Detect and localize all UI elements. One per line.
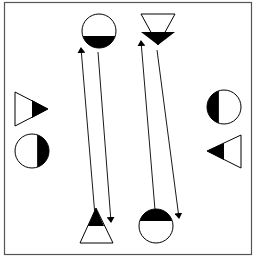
arrow-up-right (141, 41, 155, 210)
arrow-up-left (81, 48, 95, 216)
bottom-circle-icon (139, 209, 173, 243)
diagram-frame (5, 3, 252, 255)
diagram-svg (0, 0, 255, 260)
bottom-triangle-icon (80, 208, 113, 243)
top-circle-icon (82, 14, 116, 48)
arrow-down-right (157, 50, 179, 218)
diagram-canvas (0, 0, 255, 260)
arrow-down-left (98, 52, 111, 222)
top-triangle-icon (141, 14, 175, 45)
shapes-group (15, 14, 241, 243)
arrows-group (81, 41, 179, 222)
right-circle-icon (207, 90, 241, 124)
left-circle-icon (15, 134, 49, 168)
right-triangle-icon (207, 135, 241, 168)
left-triangle-icon (15, 92, 48, 126)
